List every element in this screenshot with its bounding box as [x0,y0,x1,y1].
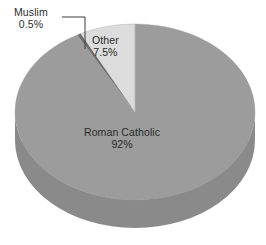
slice-label-other-percent: 7.5% [92,47,119,59]
slice-label-roman-catholic-percent: 92% [84,139,160,151]
slice-label-roman-catholic-name: Roman Catholic [84,127,160,139]
pie-chart-graphic [0,0,266,245]
slice-label-muslim-name: Muslim [14,7,48,19]
slice-label-other: Other 7.5% [92,35,119,59]
pie-chart-figure: Muslim 0.5% Other 7.5% Roman Catholic 92… [0,0,266,245]
pie-top-face [15,24,255,200]
slice-label-other-name: Other [92,35,119,47]
slice-label-muslim-percent: 0.5% [14,19,48,31]
slice-label-roman-catholic: Roman Catholic 92% [84,127,160,151]
slice-label-muslim: Muslim 0.5% [14,7,48,31]
